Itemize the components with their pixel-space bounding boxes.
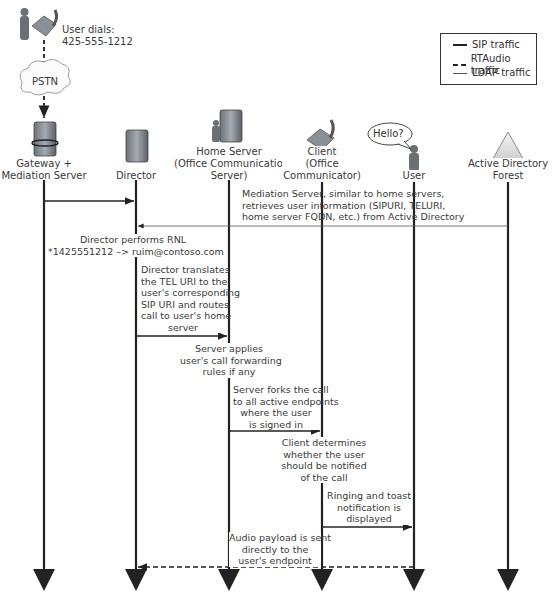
dial-label-line2: 425-555-1212 [62,36,133,48]
participant-user-label: User [399,170,429,182]
dashed-line-swatch [453,64,466,66]
caller-phone-icon [32,10,57,36]
note-audio: Audio payload is sent directly to the us… [229,532,321,567]
legend-item-sip: SIP traffic [453,39,520,51]
thin-line-swatch [453,73,467,74]
note-forwarding: Server applies user's call forwarding ru… [180,343,278,378]
caller-dial-label: User dials: 425-555-1212 [62,24,133,48]
home-server-icon [212,110,242,142]
participant-client-label: Client (Office Communicator) [282,146,362,182]
note-route-to-home: Director translates the TEL URI to the u… [141,264,225,333]
solid-line-swatch [453,44,467,46]
participant-active-directory-label: Active Directory Forest [460,158,553,182]
note-rnl: Director performs RNL *1425551212 –> rui… [48,234,218,257]
caller-person-icon [20,8,29,40]
note-ring: Ringing and toast notification is displa… [327,490,411,525]
dial-label-line1: User dials: [62,24,133,36]
note-fork: Server forks the call to all active endp… [233,384,319,430]
legend-item-ldap: LDAP traffic [453,67,530,79]
note-ldap-lookup: Mediation Server, similar to home server… [242,188,412,223]
director-server-icon [126,130,148,162]
speech-bubble-text: Hello? [373,128,404,139]
legend: SIP traffic RTAudio traffic LDAP traffic [440,33,537,85]
gateway-server-icon [32,122,58,156]
participant-gateway-label: Gateway + Mediation Server [0,158,88,182]
pstn-label: PSTN [30,76,60,88]
participant-home-server-label: Home Server (Office Communications Serve… [174,146,284,182]
participant-director-label: Director [106,170,166,182]
note-client-decide: Client determines whether the user shoul… [280,437,368,483]
